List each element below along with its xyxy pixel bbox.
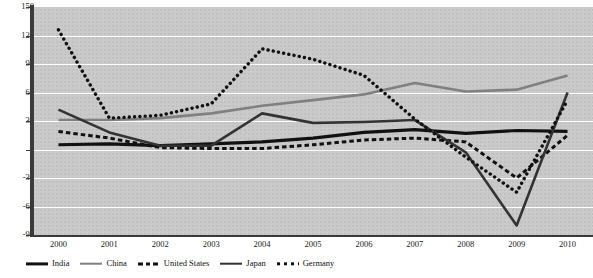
- line-chart: 1501209060300-30-60-90 20002001200220032…: [0, 0, 593, 278]
- series-line-china: [58, 75, 567, 120]
- legend-label: India: [52, 259, 69, 268]
- legend-item-china[interactable]: China: [80, 259, 126, 268]
- legend-label: United States: [164, 259, 210, 268]
- legend-swatch-icon: [26, 259, 48, 268]
- chart-legend: IndiaChinaUnited StatesJapanGermany: [26, 259, 334, 268]
- legend-swatch-icon: [220, 259, 242, 268]
- legend-swatch-icon: [80, 259, 102, 268]
- data-series-layer: [0, 0, 593, 278]
- legend-label: Germany: [303, 259, 335, 268]
- legend-item-germany[interactable]: Germany: [277, 259, 335, 268]
- legend-item-united-states[interactable]: United States: [138, 259, 210, 268]
- series-line-germany: [58, 30, 567, 192]
- legend-label: China: [106, 259, 126, 268]
- legend-label: Japan: [246, 259, 265, 268]
- legend-swatch-icon: [138, 259, 160, 268]
- legend-swatch-icon: [277, 259, 299, 268]
- series-line-japan: [58, 93, 567, 226]
- legend-item-india[interactable]: India: [26, 259, 69, 268]
- legend-item-japan[interactable]: Japan: [220, 259, 265, 268]
